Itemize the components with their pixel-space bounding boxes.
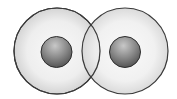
atom-left-nucleus	[41, 37, 72, 68]
diagram-canvas	[0, 0, 177, 99]
covalent-bond-diagram	[0, 0, 177, 99]
atom-right-nucleus	[110, 37, 141, 68]
